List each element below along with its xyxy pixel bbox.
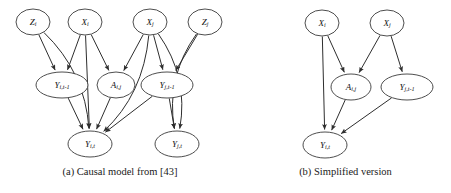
node-Yjt1: Yj,t-1 [141,72,193,98]
edge-Xj-to-Yjt1 [154,35,163,69]
node-Xi: Xi [68,9,102,35]
edge-Zi-to-Yit1 [39,35,55,70]
edge-Yjt1-to-Yit [105,96,152,132]
node-bYjt1: Yj,t-1 [381,74,433,100]
edge-Yjt1-to-Yjt [169,98,174,128]
panel-a-caption: (a) Causal model from [43] [0,166,240,177]
node-Zi: Zi [16,9,50,35]
edge-Aij-to-Yit [97,98,111,129]
node-bAij: Ai,j [331,74,371,100]
node-Yit: Yi,t [68,131,112,157]
edge-bAij-to-bYit [332,100,346,130]
edge-bXj-to-bYjt1 [391,36,402,72]
node-Aij: Ai,j [97,72,135,98]
node-Yjt: Yj,t [155,131,199,157]
node-bYit: Yi,t [303,132,347,158]
edge-Xi-to-Aij [91,35,109,71]
causal-diagram-canvas: ZiXiXjZjYi,t-1Ai,jYj,t-1Yi,tYj,tXiXjAi,j… [0,0,451,193]
node-bXi: Xi [305,10,339,36]
edge-Yit1-to-Yit [68,98,83,129]
panel-b-caption: (b) Simplified version [240,166,451,177]
edge-bXj-to-bAij [359,35,380,72]
node-Yit1: Yi,t-1 [36,72,88,98]
node-bXj: Xj [370,10,404,36]
node-Xj: Xj [133,9,167,35]
edge-bXi-to-bAij [328,36,345,73]
figure-container: ZiXiXjZjYi,t-1Ai,jYj,t-1Yi,tYj,tXiXjAi,j… [0,0,451,193]
edge-Zj-to-Yjt1 [176,34,198,70]
nodes-layer: ZiXiXjZjYi,t-1Ai,jYj,t-1Yi,tYj,tXiXjAi,j… [16,9,433,158]
edge-Xi-to-Yit1 [68,35,81,70]
edge-bYjt1-to-bYit [341,98,391,134]
node-Zj: Zj [188,9,222,35]
edge-bXi-to-bYit [322,37,324,130]
edge-Xj-to-Aij [124,34,144,70]
